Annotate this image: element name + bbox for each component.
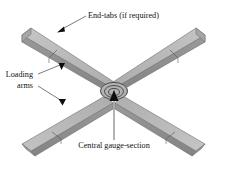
loading-arms-label-line1: Loading: [6, 70, 33, 79]
loading-arms-label-line2: arms: [17, 81, 33, 90]
central-gauge-label: Central gauge-section: [78, 141, 150, 150]
specimen-diagram-svg: End-tabs (if required) Loading arms Cent…: [0, 0, 228, 179]
end-tabs-label: End-tabs (if required): [88, 11, 159, 20]
cruciform-specimen-figure: End-tabs (if required) Loading arms Cent…: [0, 0, 228, 179]
